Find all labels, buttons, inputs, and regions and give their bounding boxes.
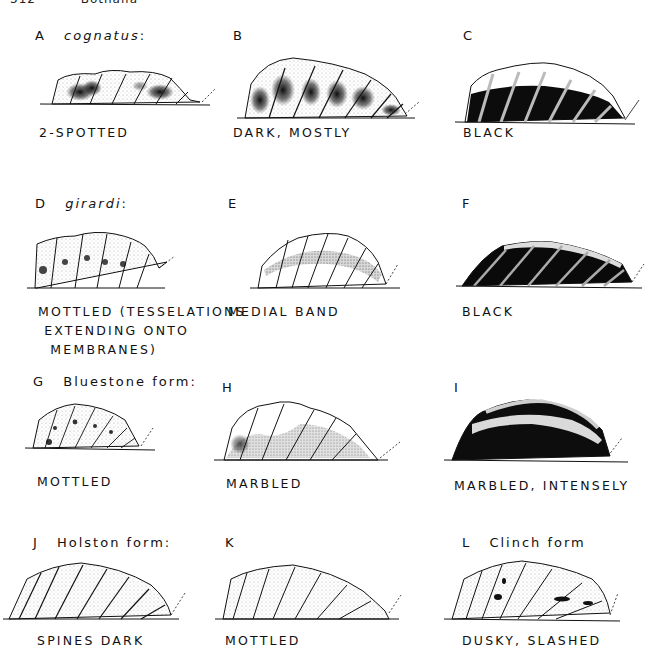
panel-e-heading: E xyxy=(228,196,438,211)
panel-j: J Holston form: SPINES DARK xyxy=(33,535,243,550)
panel-i-caption: MARBLED, INTENSELY xyxy=(454,476,629,495)
panel-letter: C xyxy=(463,28,474,43)
abdomen-drawing-mottled-tesselations xyxy=(25,222,185,292)
species-name: cognatus xyxy=(64,28,140,43)
panel-d: D girardi: MOTTLED (TESSELATIONS EXTENDI… xyxy=(35,196,245,211)
panel-letter: B xyxy=(233,28,244,43)
panel-f-caption: BLACK xyxy=(462,302,514,321)
panel-k: K MOTTLED xyxy=(225,535,435,550)
caption-line: BLACK xyxy=(463,123,515,142)
caption-line: MEMBRANES) xyxy=(38,340,246,359)
panel-b-heading: B xyxy=(233,28,443,43)
panel-h: H MARBLED xyxy=(222,380,432,395)
abdomen-drawing-marbled-intense xyxy=(442,394,642,464)
panel-g: G Bluestone form: MOTTLED xyxy=(33,374,243,389)
panel-l-heading: L Clinch form xyxy=(462,535,656,550)
caption-line: MOTTLED xyxy=(225,631,301,650)
panel-a-heading: A cognatus: xyxy=(35,28,245,43)
colon: : xyxy=(140,28,146,43)
panel-g-caption: MOTTLED xyxy=(37,472,113,491)
caption-line: MEDIAL BAND xyxy=(228,302,340,321)
running-head: 312 Bothalia xyxy=(10,0,138,6)
panel-d-heading: D girardi: xyxy=(35,196,245,211)
form-name: Holston form: xyxy=(57,535,171,550)
panel-i: I MARBLED, INTENSELY xyxy=(454,380,656,395)
panel-k-heading: K xyxy=(225,535,435,550)
panel-letter: K xyxy=(225,535,236,550)
panel-d-caption: MOTTLED (TESSELATIONS EXTENDING ONTO MEM… xyxy=(38,302,246,359)
panel-h-caption: MARBLED xyxy=(226,474,302,493)
panel-h-heading: H xyxy=(222,380,432,395)
running-head-title: Bothalia xyxy=(81,0,138,6)
panel-b: B DARK, MOSTLY xyxy=(233,28,443,43)
panel-j-heading: J Holston form: xyxy=(33,535,243,550)
form-name: Bluestone form: xyxy=(63,374,197,389)
panel-e: E MEDIAL BAND xyxy=(228,196,438,211)
panel-b-caption: DARK, MOSTLY xyxy=(233,123,351,142)
abdomen-drawing-medial-band xyxy=(248,226,408,291)
caption-line: MOTTLED (TESSELATIONS xyxy=(38,302,246,321)
colon: : xyxy=(122,196,128,211)
caption-line: DUSKY, SLASHED xyxy=(462,631,601,650)
caption-line: MOTTLED xyxy=(37,472,113,491)
species-name: girardi xyxy=(65,196,121,211)
caption-line: MARBLED xyxy=(226,474,302,493)
panel-e-caption: MEDIAL BAND xyxy=(228,302,340,321)
abdomen-drawing-two-spotted xyxy=(30,62,220,112)
panel-a: A cognatus: 2-SPOTTED xyxy=(35,28,245,43)
caption-line: SPINES DARK xyxy=(37,631,144,650)
panel-letter: G xyxy=(33,374,45,389)
abdomen-drawing-black xyxy=(445,50,645,125)
panel-letter: F xyxy=(462,196,471,211)
caption-line: DARK, MOSTLY xyxy=(233,123,351,142)
panel-f-heading: F xyxy=(462,196,656,211)
caption-line: MARBLED, INTENSELY xyxy=(454,476,629,495)
caption-line: 2-SPOTTED xyxy=(39,123,129,142)
abdomen-drawing-spines-dark xyxy=(1,557,201,622)
abdomen-drawing-dusky-slashed xyxy=(442,557,642,622)
abdomen-drawing-marbled xyxy=(210,394,410,464)
panel-j-caption: SPINES DARK xyxy=(37,631,144,650)
panel-letter: I xyxy=(454,380,460,395)
abdomen-drawing-mottled xyxy=(25,398,165,453)
abdomen-drawing-mottled-sparse xyxy=(213,557,413,622)
panel-letter: J xyxy=(33,535,39,550)
panel-g-heading: G Bluestone form: xyxy=(33,374,243,389)
panel-letter: L xyxy=(462,535,471,550)
panel-c-caption: BLACK xyxy=(463,123,515,142)
panel-c-heading: C xyxy=(463,28,656,43)
panel-i-heading: I xyxy=(454,380,656,395)
abdomen-drawing-black-full xyxy=(452,226,652,291)
form-name: Clinch form xyxy=(489,535,585,550)
abdomen-drawing-dark xyxy=(225,48,425,123)
page-number: 312 xyxy=(10,0,36,6)
panel-letter: H xyxy=(222,380,234,395)
panel-letter: D xyxy=(35,196,47,211)
panel-l: L Clinch form DUSKY, SLASHED xyxy=(462,535,656,550)
caption-line: EXTENDING ONTO xyxy=(38,321,246,340)
panel-l-caption: DUSKY, SLASHED xyxy=(462,631,601,650)
panel-a-caption: 2-SPOTTED xyxy=(39,123,129,142)
caption-line: BLACK xyxy=(462,302,514,321)
panel-k-caption: MOTTLED xyxy=(225,631,301,650)
panel-letter: E xyxy=(228,196,238,211)
panel-c: C BLACK xyxy=(463,28,656,43)
panel-f: F BLACK xyxy=(462,196,656,211)
panel-letter: A xyxy=(35,28,46,43)
